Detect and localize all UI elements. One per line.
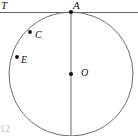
point-label-e: E [21,55,27,65]
point-e-dot [15,55,19,59]
point-label-t: T [1,0,7,11]
figure-number-caption: 12 [0,124,10,134]
figure-canvas [0,0,138,136]
point-label-a: A [73,0,80,11]
geometry-figure: T A C E O 12 [0,0,138,136]
point-o-dot [69,72,73,76]
point-label-c: C [35,30,42,40]
point-c-dot [28,30,32,34]
point-label-o: O [81,68,88,78]
